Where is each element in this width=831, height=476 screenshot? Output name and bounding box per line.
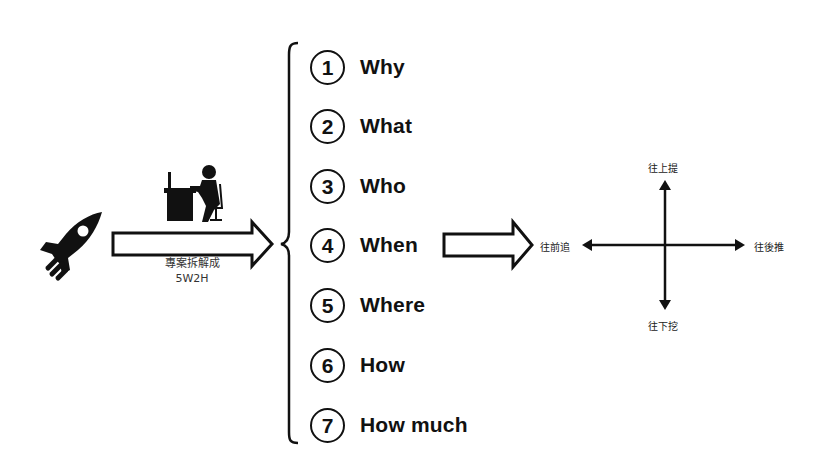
number-circle: 6 xyxy=(310,348,345,383)
axis-label-left: 往前追 xyxy=(540,239,570,254)
list-item-why: 1 Why xyxy=(310,49,405,85)
item-label: How much xyxy=(360,413,468,437)
number-circle: 7 xyxy=(310,408,345,443)
arrow-caption-line2: 5W2H xyxy=(132,271,252,286)
number-circle: 3 xyxy=(310,169,345,204)
arrow-caption: 專案拆解成 5W2H xyxy=(132,256,252,286)
list-item-where: 5 Where xyxy=(310,287,425,323)
number-circle: 2 xyxy=(310,109,345,144)
item-label: How xyxy=(360,353,405,377)
direction-axes xyxy=(582,180,745,310)
number-circle: 1 xyxy=(310,50,345,85)
item-label: What xyxy=(360,114,412,138)
small-hollow-arrow xyxy=(444,222,532,267)
rocket-icon xyxy=(40,212,102,278)
axis-label-up: 往上提 xyxy=(648,160,678,175)
list-item-how: 6 How xyxy=(310,347,405,383)
item-label: Why xyxy=(360,55,405,79)
arrow-caption-line1: 專案拆解成 xyxy=(132,256,252,271)
list-item-how-much: 7 How much xyxy=(310,407,468,443)
person-at-desk-icon xyxy=(164,165,222,222)
item-label: Who xyxy=(360,174,406,198)
curly-brace xyxy=(281,43,298,443)
item-label: Where xyxy=(360,293,425,317)
number-circle: 4 xyxy=(310,228,345,263)
list-item-who: 3 Who xyxy=(310,168,406,204)
axis-label-right: 往後推 xyxy=(754,239,784,254)
number-circle: 5 xyxy=(310,288,345,323)
axis-label-down: 往下挖 xyxy=(648,318,678,333)
list-item-when: 4 When xyxy=(310,227,418,263)
list-item-what: 2 What xyxy=(310,108,412,144)
item-label: When xyxy=(360,233,418,257)
